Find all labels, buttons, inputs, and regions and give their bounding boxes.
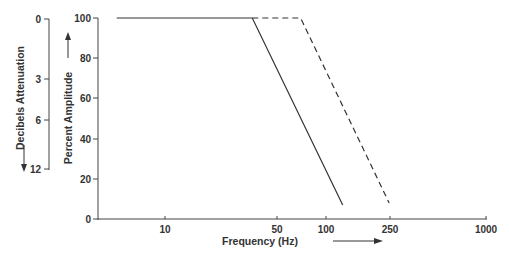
x-axis: 10 50 100 250 1000 Frequency (Hz) [98, 216, 498, 247]
db-tick-3: 3 [35, 74, 41, 85]
y-tick-40: 40 [80, 134, 92, 145]
x-tick-10: 10 [159, 224, 171, 235]
y-tick-0: 0 [85, 214, 91, 225]
y-tick-100: 100 [74, 13, 91, 24]
decibel-axis-title: Decibels Attenuation [14, 46, 26, 150]
y-axis: 100 80 60 40 20 0 Percent Amplitude [62, 13, 98, 225]
db-tick-0: 0 [35, 14, 41, 25]
db-tick-12: 12 [30, 164, 42, 175]
x-tick-100: 100 [318, 224, 335, 235]
x-tick-250: 250 [382, 224, 399, 235]
db-tick-6: 6 [35, 115, 41, 126]
series-dashed-line [252, 18, 389, 203]
series-solid-line [117, 18, 343, 205]
y-tick-60: 60 [80, 93, 92, 104]
x-axis-title: Frequency (Hz) [222, 235, 298, 247]
decibel-axis: 0 3 6 12 Decibels Attenuation [14, 14, 49, 175]
x-tick-1000: 1000 [475, 224, 498, 235]
x-tick-50: 50 [271, 224, 283, 235]
y-tick-20: 20 [80, 174, 92, 185]
chart: 0 3 6 12 Decibels Attenuation 100 80 60 … [0, 0, 509, 254]
y-tick-80: 80 [80, 53, 92, 64]
y-axis-title: Percent Amplitude [62, 72, 74, 165]
